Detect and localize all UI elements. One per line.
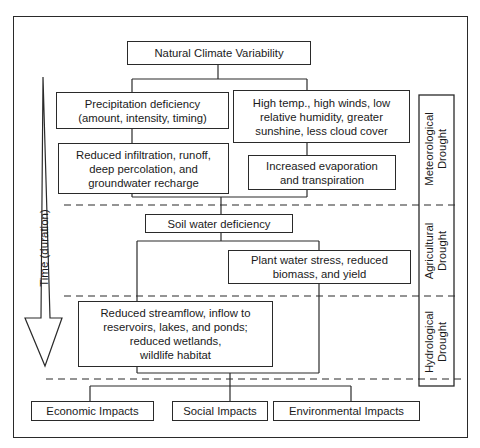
environmental-impacts-node: Environmental Impacts — [273, 401, 420, 421]
hydrological-drought-label: Hydrological Drought — [419, 292, 453, 392]
agricultural-drought-label: Agricultural Drought — [419, 201, 453, 301]
node-label: Precipitation deficiency (amount, intens… — [78, 97, 207, 125]
node-label: Plant water stress, reduced biomass, and… — [251, 253, 388, 281]
node-label: Increased evaporation and transpiration — [266, 159, 378, 187]
node-label: Natural Climate Variability — [154, 46, 283, 60]
node-label: High temp., high winds, low relative hum… — [253, 96, 391, 138]
node-label: Environmental Impacts — [289, 404, 404, 418]
node-label: Reduced streamflow, inflow to reservoirs… — [100, 306, 250, 362]
social-impacts-node: Social Impacts — [172, 401, 268, 421]
node-label: Social Impacts — [183, 404, 256, 418]
time-duration-label: Time (duration) — [36, 198, 52, 298]
node-label: Soil water deficiency — [168, 217, 271, 231]
increased-evaporation-node: Increased evaporation and transpiration — [248, 155, 396, 190]
node-label: Economic Impacts — [46, 404, 138, 418]
reduced-streamflow-node: Reduced streamflow, inflow to reservoirs… — [78, 301, 273, 367]
plant-water-stress-node: Plant water stress, reduced biomass, and… — [228, 250, 411, 284]
precipitation-deficiency-node: Precipitation deficiency (amount, intens… — [56, 92, 229, 129]
natural-climate-variability-node: Natural Climate Variability — [127, 41, 311, 65]
node-label: Reduced infiltration, runoff, deep perco… — [76, 148, 211, 190]
economic-impacts-node: Economic Impacts — [31, 401, 154, 421]
reduced-infiltration-node: Reduced infiltration, runoff, deep perco… — [58, 143, 229, 194]
meteorological-drought-label: Meteorological Drought — [419, 99, 453, 199]
soil-water-deficiency-node: Soil water deficiency — [145, 214, 293, 233]
drought-diagram: Natural Climate Variability Precipitatio… — [0, 0, 480, 448]
high-temp-winds-node: High temp., high winds, low relative hum… — [233, 90, 410, 143]
